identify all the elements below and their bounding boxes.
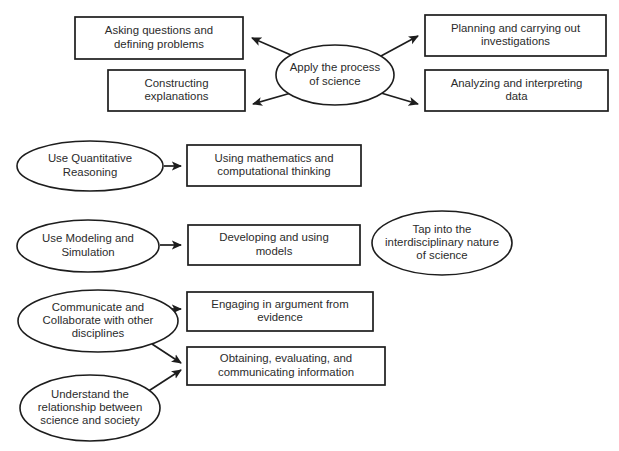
connector-arrow-communicate-to-obtaining bbox=[152, 344, 181, 363]
node-obtaining-evaluating: Obtaining, evaluating, andcommunicating … bbox=[187, 347, 385, 385]
node-layer: Asking questions anddefining problemsApp… bbox=[17, 15, 608, 441]
connector-arrow-apply-to-analyzing bbox=[381, 93, 418, 104]
node-label-asking-questions: Asking questions anddefining problems bbox=[105, 24, 213, 49]
node-label-understand-relationship: Understand therelationship betweenscienc… bbox=[38, 388, 143, 426]
connector-arrow-apply-to-asking bbox=[252, 38, 291, 55]
diagram-canvas: Asking questions anddefining problemsApp… bbox=[0, 0, 619, 451]
node-label-using-mathematics: Using mathematics andcomputational think… bbox=[214, 152, 333, 177]
node-using-mathematics: Using mathematics andcomputational think… bbox=[187, 145, 361, 186]
node-use-quantitative-reasoning: Use QuantitativeReasoning bbox=[17, 141, 163, 191]
connector-arrow-understand-to-obtaining bbox=[147, 370, 181, 392]
node-understand-relationship: Understand therelationship betweenscienc… bbox=[20, 375, 160, 441]
node-analyzing-data: Analyzing and interpretingdata bbox=[425, 70, 608, 111]
node-engaging-argument: Engaging in argument fromevidence bbox=[187, 292, 373, 331]
node-label-constructing-explanations: Constructingexplanations bbox=[145, 77, 209, 102]
node-label-obtaining-evaluating: Obtaining, evaluating, andcommunicating … bbox=[218, 352, 354, 377]
concept-map-diagram: Asking questions anddefining problemsApp… bbox=[0, 0, 619, 451]
node-constructing-explanations: Constructingexplanations bbox=[108, 70, 245, 111]
node-tap-interdisciplinary: Tap into theinterdisciplinary natureof s… bbox=[372, 211, 512, 275]
connector-arrow-apply-to-constructing bbox=[253, 93, 291, 104]
node-planning-investigations: Planning and carrying outinvestigations bbox=[425, 15, 606, 56]
connector-arrow-apply-to-planning bbox=[381, 36, 418, 56]
node-communicate-collaborate: Communicate andCollaborate with otherdis… bbox=[18, 290, 178, 352]
node-apply-process: Apply the processof science bbox=[276, 45, 394, 105]
node-use-modeling-simulation: Use Modeling andSimulation bbox=[17, 220, 159, 272]
node-developing-models: Developing and usingmodels bbox=[188, 225, 360, 265]
node-asking-questions: Asking questions anddefining problems bbox=[75, 17, 243, 59]
